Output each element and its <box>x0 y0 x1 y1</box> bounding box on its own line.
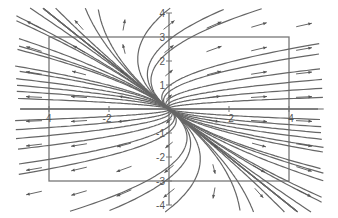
direction-arrow <box>251 46 267 50</box>
phase-portrait-chart: -4-224 4321-1-2-3-4 <box>0 0 338 218</box>
trajectory-curve <box>15 109 169 121</box>
direction-arrow <box>26 191 42 195</box>
x-tick-label: -2 <box>103 113 112 124</box>
x-tick-label: -4 <box>43 113 52 124</box>
x-tick-label: 2 <box>228 113 234 124</box>
direction-arrow <box>212 188 215 199</box>
direction-arrow <box>213 164 216 173</box>
trajectory-curve <box>169 109 297 212</box>
direction-arrow <box>71 191 86 196</box>
direction-arrow <box>208 95 220 98</box>
direction-arrow <box>252 143 266 147</box>
x-tick-label: 4 <box>288 113 294 124</box>
direction-arrow <box>71 167 87 171</box>
trajectory-curve <box>110 109 191 211</box>
direction-arrow <box>122 44 125 53</box>
direction-arrow <box>123 20 126 31</box>
direction-arrow <box>251 95 267 98</box>
direction-arrow <box>206 46 221 52</box>
y-tick-label: 2 <box>159 56 165 67</box>
direction-arrow <box>296 120 312 123</box>
direction-arrow <box>72 71 86 75</box>
y-tick-label: -4 <box>156 200 165 211</box>
direction-arrow <box>251 71 267 75</box>
y-tick-label: -3 <box>156 176 165 187</box>
direction-arrow <box>116 166 131 172</box>
direction-arrow <box>27 21 41 28</box>
direction-arrow <box>118 120 130 123</box>
direction-arrow <box>207 22 222 28</box>
direction-arrow <box>26 95 42 98</box>
direction-arrow <box>117 190 132 196</box>
trajectory-curve <box>169 97 323 109</box>
y-tick-label: 1 <box>159 80 165 91</box>
direction-arrow <box>296 22 312 26</box>
trajectory-curve <box>162 44 319 109</box>
direction-arrow <box>71 144 87 148</box>
direction-arrow <box>251 22 266 27</box>
y-tick-label: -1 <box>156 128 165 139</box>
direction-arrow <box>297 189 311 196</box>
direction-arrow <box>71 120 87 123</box>
y-tick-label: 3 <box>159 32 165 43</box>
y-tick-label: 4 <box>159 8 165 19</box>
y-tick-label: -2 <box>156 152 165 163</box>
